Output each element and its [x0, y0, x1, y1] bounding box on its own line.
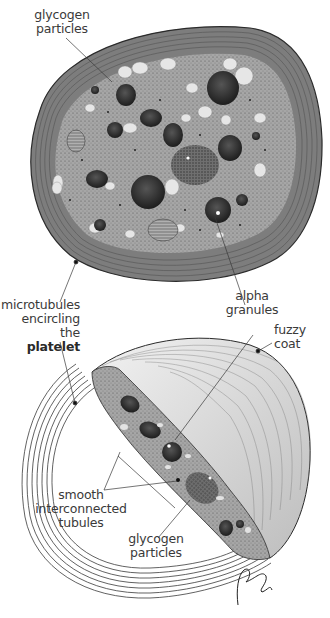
- label-line: tubules: [26, 516, 136, 530]
- label-line: microtubules: [0, 298, 80, 312]
- platelet-diagram: glycogen particles microtubules encircli…: [0, 0, 330, 618]
- label-line: glycogen: [22, 8, 102, 22]
- label-line: particles: [116, 546, 196, 560]
- label-glycogen-particles-bottom: glycogen particles: [116, 532, 196, 560]
- label-line: alpha: [222, 289, 282, 303]
- label-line: particles: [22, 22, 102, 36]
- label-line: glycogen: [116, 532, 196, 546]
- label-alpha-granules: alpha granules: [222, 289, 282, 317]
- label-line: encircling the: [0, 312, 80, 340]
- label-smooth-interconnected-tubules: smooth interconnected tubules: [26, 488, 136, 530]
- label-line: smooth: [26, 488, 136, 502]
- label-line: fuzzy: [274, 323, 324, 337]
- label-fuzzy-coat: fuzzy coat: [274, 323, 324, 351]
- label-line: granules: [222, 303, 282, 317]
- label-line-bold: platelet: [27, 339, 80, 354]
- label-line: coat: [274, 337, 324, 351]
- label-line: interconnected: [26, 502, 136, 516]
- label-microtubules: microtubules encircling the platelet: [0, 298, 80, 354]
- artist-signature: [237, 569, 272, 605]
- label-glycogen-particles-top: glycogen particles: [22, 8, 102, 36]
- platelet-cross-section: [31, 27, 322, 282]
